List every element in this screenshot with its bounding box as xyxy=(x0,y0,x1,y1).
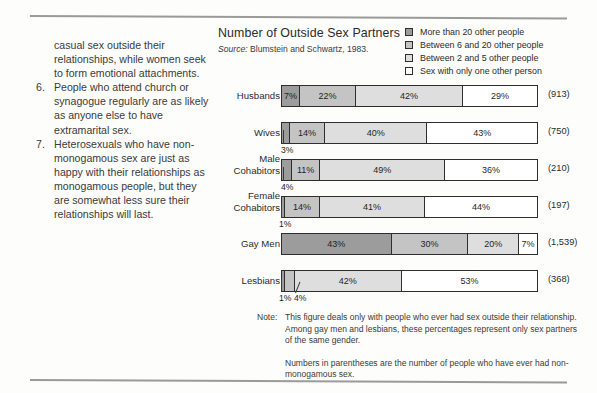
segment-callout-leader-line xyxy=(281,278,282,292)
legend-swatch-2-to-5 xyxy=(405,54,413,62)
row-label-lesbians: Lesbians xyxy=(160,275,280,287)
segment-callout-label: 1% xyxy=(279,219,291,229)
bar-segment[interactable]: 29% xyxy=(463,86,537,106)
row-label-line: Male xyxy=(160,153,280,165)
row-label-female-cohabitors: FemaleCohabitors xyxy=(160,190,280,213)
bar-segment[interactable]: 53% xyxy=(402,271,537,291)
bar-segment[interactable]: 40% xyxy=(325,123,427,143)
row-label-line: Husbands xyxy=(160,90,280,102)
note-block-primary: Note: This figure deals only with people… xyxy=(257,312,577,347)
bar-segment-value: 42% xyxy=(400,91,418,101)
bar-segment-value: 14% xyxy=(293,202,311,212)
top-divider-rule xyxy=(30,15,567,19)
bar-segment[interactable]: 14% xyxy=(285,197,321,217)
bar-segment[interactable]: 14% xyxy=(290,123,326,143)
legend-item-label: More than 20 other people xyxy=(420,27,524,37)
row-label-line: Female xyxy=(160,190,280,202)
segment-callout-label: 4% xyxy=(281,182,293,192)
bar-segment-value: 14% xyxy=(298,128,316,138)
stacked-bar: 14%41%44% xyxy=(281,196,538,218)
bar-segment-value: 20% xyxy=(484,239,502,249)
bar-segment-value: 42% xyxy=(339,276,357,286)
bar-segment[interactable]: 7% xyxy=(282,86,300,106)
legend-item[interactable]: Between 6 and 20 other people xyxy=(405,38,543,51)
row-label-wives: Wives xyxy=(160,127,280,139)
legend-item[interactable]: Between 2 and 5 other people xyxy=(405,51,543,64)
note-block-secondary: Numbers in parentheses are the number of… xyxy=(257,358,577,381)
chart-source-text: Blumstein and Schwartz, 1983. xyxy=(250,44,368,54)
row-sample-count: (197) xyxy=(548,200,570,210)
bar-segment[interactable]: 42% xyxy=(295,271,402,291)
legend-item[interactable]: Sex with only one other person xyxy=(405,64,543,77)
bar-segment[interactable]: 20% xyxy=(468,234,519,254)
row-label-line: Cohabitors xyxy=(160,202,280,214)
bar-segment-value: 11% xyxy=(297,165,314,175)
bar-segment-value: 49% xyxy=(373,165,391,175)
note-body: This figure deals only with people who e… xyxy=(285,312,577,345)
row-label-line: Cohabitors xyxy=(160,165,280,177)
legend-item-label: Between 2 and 5 other people xyxy=(420,53,538,63)
row-sample-count: (913) xyxy=(548,89,570,99)
bar-segment[interactable]: 30% xyxy=(392,234,469,254)
legend-item[interactable]: More than 20 other people xyxy=(405,25,543,38)
stacked-bar: 43%30%20%7% xyxy=(281,233,538,255)
bar-segment-value: 43% xyxy=(473,128,491,138)
bar-segment-value: 43% xyxy=(327,239,345,249)
bar-segment-value: 7% xyxy=(284,91,297,101)
chart-row: Lesbians42%53%1%4%(368) xyxy=(218,268,590,305)
chart-bar-rows: Husbands7%22%42%29%(913)Wives14%40%43%3%… xyxy=(218,83,590,305)
note-body-2: Numbers in parentheses are the number of… xyxy=(285,358,569,380)
bar-segment[interactable]: 36% xyxy=(445,160,537,180)
bar-segment[interactable]: 22% xyxy=(300,86,356,106)
note-spacer xyxy=(257,347,577,358)
figure-page: casual sex outside their relationships, … xyxy=(0,0,597,393)
legend-swatch-more-than-20 xyxy=(405,28,413,36)
row-sample-count: (210) xyxy=(548,163,570,173)
bar-segment[interactable]: 43% xyxy=(282,234,392,254)
chart-legend: More than 20 other peopleBetween 6 and 2… xyxy=(405,25,543,77)
figure-notes: Note: This figure deals only with people… xyxy=(257,312,577,381)
legend-swatch-one-person xyxy=(405,67,413,75)
row-label-gay-men: Gay Men xyxy=(160,238,280,250)
bar-segment-value: 36% xyxy=(482,165,500,175)
bar-segment[interactable]: 11% xyxy=(292,160,320,180)
bar-segment[interactable]: 7% xyxy=(519,234,537,254)
row-label-line: Gay Men xyxy=(160,238,280,250)
chart-row: Husbands7%22%42%29%(913) xyxy=(218,83,590,120)
segment-callout-leader-line xyxy=(281,204,282,218)
bar-segment[interactable] xyxy=(285,271,295,291)
chart-row: Gay Men43%30%20%7%(1,539) xyxy=(218,231,590,268)
bar-segment[interactable]: 44% xyxy=(425,197,537,217)
paragraph-continuation: casual sex outside their relationships, … xyxy=(54,38,212,80)
row-sample-count: (368) xyxy=(548,274,570,284)
bar-segment[interactable]: 42% xyxy=(356,86,463,106)
bar-segment[interactable]: 49% xyxy=(320,160,445,180)
segment-callout-leader-line xyxy=(283,167,284,181)
stacked-bar: 14%40%43% xyxy=(281,122,538,144)
bar-segment-value: 30% xyxy=(420,239,438,249)
row-sample-count: (750) xyxy=(548,126,570,136)
chart-row: Wives14%40%43%3%(750) xyxy=(218,120,590,157)
bar-segment[interactable]: 41% xyxy=(320,197,425,217)
bar-segment[interactable]: 43% xyxy=(427,123,537,143)
segment-callout-label: 3% xyxy=(281,145,293,155)
bar-segment-value: 29% xyxy=(491,91,509,101)
chart-row: MaleCohabitors11%49%36%4%(210) xyxy=(218,157,590,194)
chart-source-prefix: Source: xyxy=(218,44,248,54)
note-label: Note: xyxy=(257,312,277,324)
bar-segment-value: 40% xyxy=(367,128,385,138)
bar-segment-value: 44% xyxy=(472,202,490,212)
chart-source: Source: Blumstein and Schwartz, 1983. xyxy=(218,44,368,54)
bar-segment-value: 7% xyxy=(522,239,535,249)
list-item-number: 7. xyxy=(36,137,45,151)
legend-item-label: Sex with only one other person xyxy=(420,66,542,76)
segment-callout-label: 4% xyxy=(294,293,306,303)
stacked-bar: 42%53% xyxy=(281,270,538,292)
chart-row: FemaleCohabitors14%41%44%1%(197) xyxy=(218,194,590,231)
bar-segment-value: 41% xyxy=(363,202,381,212)
row-sample-count: (1,539) xyxy=(548,237,577,247)
segment-callout-leader-line xyxy=(283,130,284,144)
row-label-line: Lesbians xyxy=(160,275,280,287)
legend-swatch-6-to-20 xyxy=(405,41,413,49)
stacked-bar: 11%49%36% xyxy=(281,159,538,181)
